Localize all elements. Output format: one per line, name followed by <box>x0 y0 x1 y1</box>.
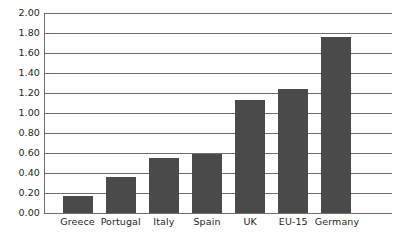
x-axis-category-label: UK <box>229 216 272 228</box>
bar <box>321 37 351 213</box>
bar <box>149 158 179 213</box>
plot-area <box>44 13 392 213</box>
x-axis-category-label: Italy <box>142 216 185 228</box>
x-axis-category-label: Greece <box>56 216 99 228</box>
bar-chart: 2.00 1.80 1.60 1.40 1.20 1.00 0.80 0.60 … <box>0 0 400 251</box>
y-axis-tick-label: 0.40 <box>0 168 40 178</box>
x-axis-category-label: Portugal <box>99 216 142 228</box>
y-axis-tick-label: 0.20 <box>0 188 40 198</box>
x-axis-category-label: Spain <box>185 216 228 228</box>
y-axis-tick-label: 1.80 <box>0 28 40 38</box>
y-axis-tick-labels: 2.00 1.80 1.60 1.40 1.20 1.00 0.80 0.60 … <box>0 13 40 213</box>
bar <box>278 89 308 213</box>
bar <box>192 154 222 213</box>
x-axis-line <box>44 213 392 214</box>
y-axis-tick-label: 0.60 <box>0 148 40 158</box>
y-axis-tick-label: 1.60 <box>0 48 40 58</box>
x-axis-category-labels: GreecePortugalItalySpainUKEU-15Germany <box>44 216 392 236</box>
bar <box>63 196 93 213</box>
y-axis-tick-label: 1.20 <box>0 88 40 98</box>
y-axis-tick-label: 2.00 <box>0 8 40 18</box>
bar-series <box>44 13 392 213</box>
bar <box>106 177 136 213</box>
x-axis-category-label: EU-15 <box>272 216 315 228</box>
y-axis-tick-label: 0.80 <box>0 128 40 138</box>
y-axis-tick-label: 1.40 <box>0 68 40 78</box>
x-axis-category-label: Germany <box>315 216 358 228</box>
bar <box>235 100 265 213</box>
y-axis-tick-label: 1.00 <box>0 108 40 118</box>
y-axis-tick-label: 0.00 <box>0 208 40 218</box>
